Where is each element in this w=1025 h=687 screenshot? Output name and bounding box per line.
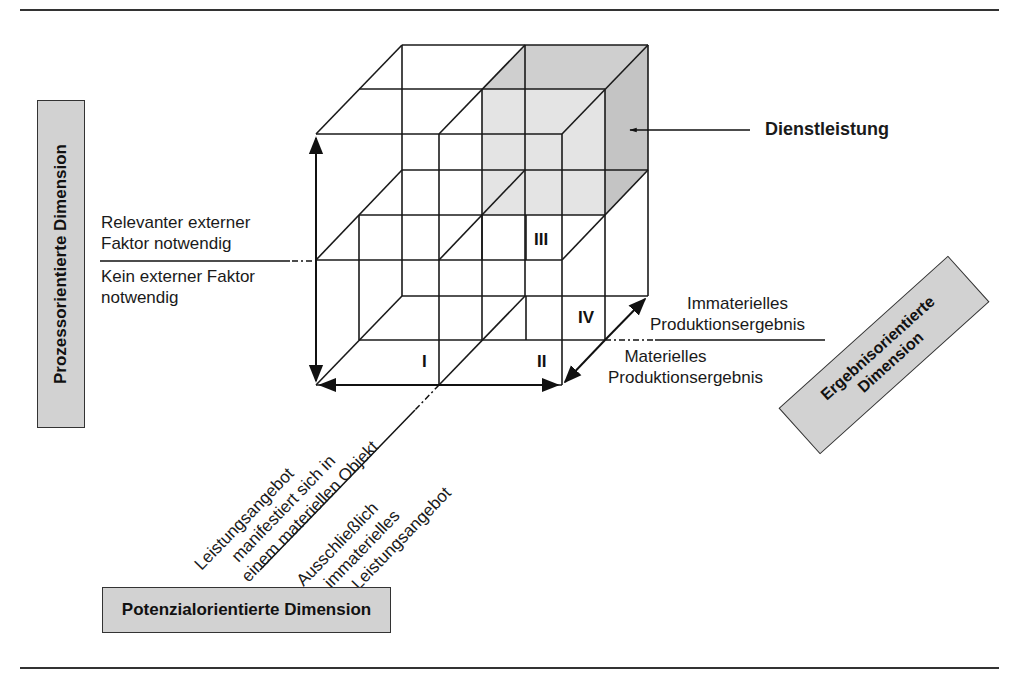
process-lower-line1: Kein externer Faktor [101,266,255,287]
process-upper-label: Relevanter externer Faktor notwendig [101,212,250,254]
process-lower-label: Kein externer Faktor notwendig [101,266,255,308]
process-upper-line1: Relevanter externer [101,212,250,233]
process-upper-line2: Faktor notwendig [101,233,250,254]
cell-label-iv: IV [578,308,594,328]
process-lower-line2: notwendig [101,287,255,308]
result-upper-line2: Produktionsergebnis [650,314,805,335]
cube-wireframe [316,45,648,385]
cell-label-ii: II [537,352,546,372]
result-lower-line2: Produktionsergebnis [608,367,763,388]
potential-dimension-label: Potenzialorientierte Dimension [102,587,391,633]
result-upper-line1: Immaterielles [650,293,805,314]
cell-label-iii: III [534,230,548,250]
result-upper-label: Immaterielles Produktionsergebnis [650,293,805,335]
process-dimension-label: Prozessorientierte Dimension [37,100,85,428]
cell-label-i: I [422,352,427,372]
process-dimension-text: Prozessorientierte Dimension [51,144,71,384]
result-lower-label: Materielles Produktionsergebnis [608,346,763,388]
dienstleistung-label: Dienstleistung [765,119,889,140]
result-lower-line1: Materielles [608,346,763,367]
